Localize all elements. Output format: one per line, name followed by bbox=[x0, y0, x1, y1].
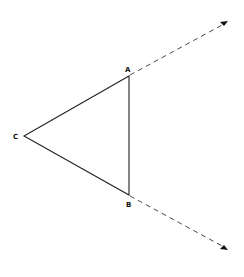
diagram-svg: A B C bbox=[0, 0, 244, 277]
triangle-abc bbox=[24, 76, 129, 195]
ray-extension-a bbox=[130, 24, 224, 75]
label-a: A bbox=[125, 66, 131, 74]
triangle-diagram: A B C bbox=[0, 0, 244, 277]
ray-extension-b bbox=[130, 196, 224, 247]
label-c: C bbox=[13, 133, 18, 141]
label-b: B bbox=[126, 201, 131, 209]
